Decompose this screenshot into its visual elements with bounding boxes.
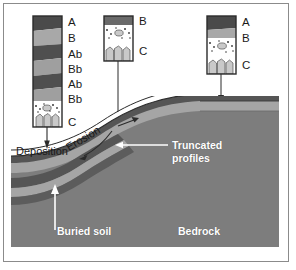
left-profile-label-Ab-1: Ab xyxy=(68,49,82,61)
left-horizon-Ab-2 xyxy=(33,73,62,90)
middle-profile-label-B: B xyxy=(139,16,147,28)
middle-horizon-B xyxy=(104,16,133,25)
right-profile-label-A: A xyxy=(242,17,250,29)
diagram-stage: A B Ab Bb Ab Bb C B C A B C Deposition E… xyxy=(0,0,296,270)
buried-soil-label: Buried soil xyxy=(57,226,111,237)
figure-root: A B Ab Bb Ab Bb C B C A B C Deposition E… xyxy=(0,0,296,270)
right-profile-label-B: B xyxy=(242,33,250,45)
left-profile-label-Ab-2: Ab xyxy=(68,79,82,91)
left-profile-label-Bb-2: Bb xyxy=(68,94,82,106)
bedrock-label: Bedrock xyxy=(178,226,220,237)
deposition-label: Deposition xyxy=(16,146,68,157)
left-profile-label-A: A xyxy=(68,17,76,29)
right-profile-column xyxy=(207,16,236,74)
truncated-profiles-label-line1: Truncated xyxy=(172,139,222,151)
middle-profile-column xyxy=(104,16,133,61)
truncated-profiles-label-line2: profiles xyxy=(172,152,210,164)
left-profile-column xyxy=(33,16,62,127)
right-horizon-A xyxy=(207,16,236,30)
left-profile-label-B: B xyxy=(68,33,76,45)
left-horizon-Bb-1 xyxy=(33,58,62,76)
diagram-svg xyxy=(0,0,296,270)
left-profile-label-C: C xyxy=(68,117,76,129)
middle-profile-label-C: C xyxy=(139,46,147,58)
left-profile-label-Bb-1: Bb xyxy=(68,64,82,76)
right-profile-label-C: C xyxy=(242,60,250,72)
left-horizon-B xyxy=(33,28,62,46)
